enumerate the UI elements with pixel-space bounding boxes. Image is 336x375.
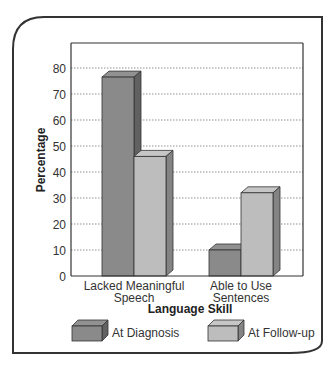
- legend: At DiagnosisAt Follow-up: [72, 320, 315, 341]
- y-tick-label: 20: [53, 218, 67, 232]
- y-tick-label: 80: [53, 62, 67, 76]
- y-axis-label: Percentage: [34, 127, 48, 192]
- y-tick-label: 40: [53, 166, 67, 180]
- legend-label: At Diagnosis: [112, 326, 179, 340]
- y-axis-ticks: 01020304050607080: [53, 62, 67, 284]
- y-tick-label: 70: [53, 88, 67, 102]
- y-tick-label: 50: [53, 140, 67, 154]
- y-tick-label: 10: [53, 244, 67, 258]
- legend-item: At Diagnosis: [72, 320, 179, 341]
- bars: [102, 71, 280, 276]
- y-tick-label: 0: [59, 270, 66, 284]
- bar-chart: 01020304050607080 Lacked MeaningfulSpeec…: [0, 0, 336, 375]
- x-axis-label: Language Skill: [148, 302, 233, 316]
- bar: [241, 187, 280, 276]
- legend-label: At Follow-up: [248, 326, 315, 340]
- y-tick-label: 60: [53, 114, 67, 128]
- y-tick-label: 30: [53, 192, 67, 206]
- legend-item: At Follow-up: [208, 320, 315, 341]
- bar: [134, 150, 173, 276]
